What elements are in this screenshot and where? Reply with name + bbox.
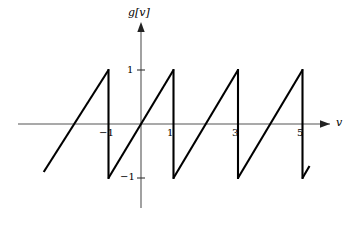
x-tick-label-three: 3	[232, 128, 238, 138]
y-axis-arrowhead	[137, 22, 144, 32]
x-tick-label-five: 5	[297, 128, 303, 138]
x-tick-label-one: 1	[167, 128, 173, 138]
x-tick-label-neg-one: −1	[99, 128, 114, 138]
x-axis-label: v	[336, 117, 342, 128]
x-axis-arrowhead	[320, 120, 330, 127]
y-tick-label-neg-one: −1	[120, 172, 135, 182]
sawtooth-waveform-figure: g[v] v −1 1 3 5 1 −1	[0, 0, 354, 228]
y-axis-label: g[v]	[128, 7, 150, 18]
ramp-segment-1	[44, 70, 109, 172]
y-tick-label-one: 1	[127, 65, 133, 75]
plot-canvas	[0, 0, 354, 228]
